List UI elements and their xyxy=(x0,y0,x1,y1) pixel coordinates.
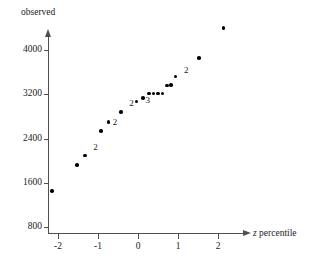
point-multiplicity-label: 2 xyxy=(184,66,189,75)
y-axis-tick-label: 4000 xyxy=(8,45,42,55)
data-point xyxy=(107,120,111,124)
data-point xyxy=(119,110,123,114)
data-point xyxy=(135,100,139,104)
y-axis-tick-label: 1600 xyxy=(8,178,42,188)
x-axis-tick-label: -1 xyxy=(86,241,110,251)
x-axis-tick-label: 2 xyxy=(206,241,230,251)
y-axis-line xyxy=(48,36,49,234)
y-axis-tick-label: 2400 xyxy=(8,134,42,144)
data-point xyxy=(83,154,87,158)
data-point xyxy=(75,163,79,167)
data-point xyxy=(197,56,201,60)
data-point xyxy=(169,83,173,87)
y-axis-tick-label: 3200 xyxy=(8,89,42,99)
data-point xyxy=(50,189,54,193)
x-axis-line xyxy=(48,233,244,234)
y-axis-tick-label: 800 xyxy=(8,222,42,232)
x-axis-tick xyxy=(98,234,99,239)
data-point xyxy=(174,75,178,79)
x-axis-tick-label: -2 xyxy=(46,241,70,251)
y-axis-arrow-icon xyxy=(45,29,51,37)
point-multiplicity-label: 2 xyxy=(113,118,118,127)
data-point xyxy=(152,92,156,96)
data-point xyxy=(161,92,165,96)
data-point xyxy=(156,92,160,96)
x-axis-arrow-icon xyxy=(243,230,251,236)
scatter-plot: observed z percentile 400032002400160080… xyxy=(0,0,321,262)
y-axis-tick xyxy=(44,139,49,140)
data-point xyxy=(141,96,145,100)
data-point xyxy=(99,129,103,133)
x-axis-title-word: percentile xyxy=(259,228,296,238)
y-axis-title: observed xyxy=(21,7,55,18)
point-multiplicity-label: 2 xyxy=(129,99,134,108)
y-axis-tick xyxy=(44,183,49,184)
x-axis-tick xyxy=(218,234,219,239)
x-axis-tick-label: 1 xyxy=(166,241,190,251)
x-axis-tick xyxy=(178,234,179,239)
y-axis-tick xyxy=(44,50,49,51)
point-multiplicity-label: 2 xyxy=(93,143,98,152)
x-axis-tick xyxy=(138,234,139,239)
point-multiplicity-label: 3 xyxy=(146,96,151,105)
data-point xyxy=(222,26,226,30)
x-axis-title-variable: z xyxy=(253,228,257,238)
x-axis-tick xyxy=(58,234,59,239)
x-axis-title: z percentile xyxy=(253,228,297,239)
y-axis-tick xyxy=(44,227,49,228)
y-axis-tick xyxy=(44,94,49,95)
x-axis-tick-label: 0 xyxy=(126,241,150,251)
